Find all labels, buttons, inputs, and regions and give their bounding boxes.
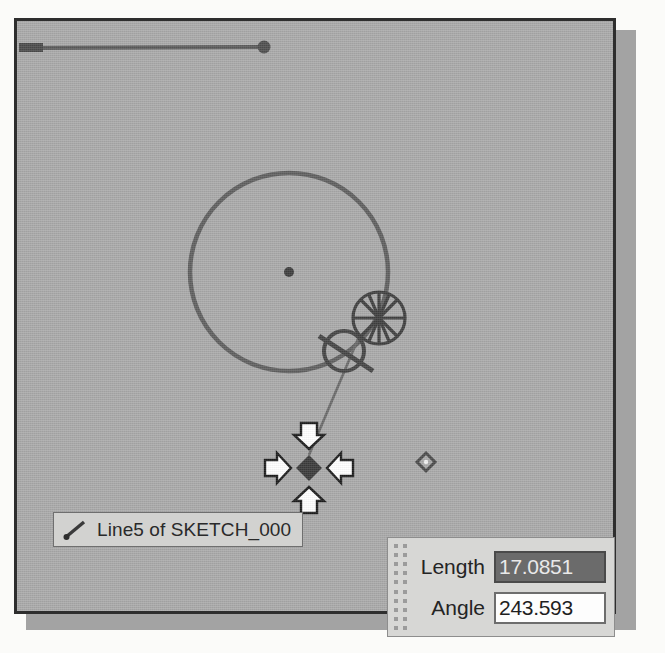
length-field-label: Length [414, 555, 494, 579]
free-point-marker [417, 453, 435, 471]
line-endpoint-dot [258, 41, 271, 54]
entity-tooltip-label: Line5 of SKETCH_000 [97, 519, 291, 541]
screenshot-root: Line5 of SKETCH_000 Length 1 [0, 0, 665, 653]
circle-center-point [284, 267, 294, 277]
angle-field-label: Angle [414, 596, 494, 620]
snap-point-diamond [296, 455, 322, 481]
length-field-row: Length 17.0851 [414, 546, 606, 587]
snap-to-point-cursor [353, 292, 405, 344]
horizontal-line [19, 47, 263, 48]
horizontal-line-entity [19, 41, 271, 54]
dynamic-input-fields: Length 17.0851 Angle 243.593 [414, 538, 614, 636]
length-input-value: 17.0851 [499, 555, 573, 579]
entity-tooltip: Line5 of SKETCH_000 [53, 512, 303, 547]
angle-field-row: Angle 243.593 [414, 587, 606, 628]
angle-input[interactable]: 243.593 [494, 592, 606, 624]
angle-input-value: 243.593 [499, 596, 573, 620]
line-tool-icon [62, 519, 88, 541]
line-startpoint [19, 43, 43, 52]
panel-drag-grip[interactable] [388, 538, 414, 636]
dynamic-input-panel[interactable]: Length 17.0851 Angle 243.593 [387, 537, 615, 637]
length-input[interactable]: 17.0851 [494, 551, 606, 583]
move-point-cursor [265, 423, 353, 513]
cad-graphics-window[interactable]: Line5 of SKETCH_000 Length 1 [14, 18, 616, 614]
